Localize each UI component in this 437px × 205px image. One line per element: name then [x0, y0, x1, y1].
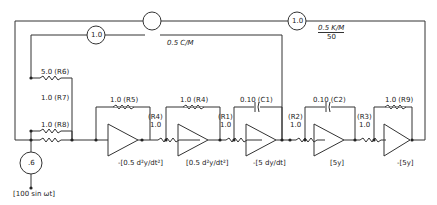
pot-outer-denominator: 50: [327, 33, 336, 41]
r3-label-val: 1.0: [359, 121, 370, 129]
r2-label-val: 1.0: [290, 121, 301, 129]
source-label: [100 sin ωt]: [13, 190, 55, 198]
c2-label: 0.10 (C2): [313, 96, 346, 104]
r7-label: 1.0 (R7): [41, 94, 69, 102]
circuit-diagram: [0, 0, 437, 205]
r1-label-top: (R1): [218, 113, 233, 121]
r4a-label-top: (R4): [148, 113, 163, 121]
pot-outer-label: 0.5 K/M: [318, 24, 344, 33]
pot-outer-value: 1.0: [292, 17, 303, 25]
output-5: -[5y]: [397, 159, 414, 167]
r1-label-val: 1.0: [220, 121, 231, 129]
r2-label-top: (R2): [288, 113, 303, 121]
output-2: [0.5 d²y/dt²]: [186, 159, 229, 167]
r4-label: 1.0 (R4): [180, 96, 208, 104]
pot-inner-value: 1.0: [91, 31, 102, 39]
output-1: -[0.5 d²y/dt²]: [118, 159, 163, 167]
pot-source-value: .6: [28, 159, 35, 167]
r5-label: 1.0 (R5): [110, 96, 138, 104]
c1-label: 0.10 (C1): [240, 96, 273, 104]
pot-inner-label: 0.5 C/M: [167, 39, 194, 47]
r6-label: 5.0 (R6): [41, 68, 69, 76]
r3-label-top: (R3): [357, 113, 372, 121]
r9-label: 1.0 (R9): [385, 96, 413, 104]
r8-label: 1.0 (R8): [41, 121, 69, 129]
r4a-label-val: 1.0: [150, 121, 161, 129]
output-3: -[5 dy/dt]: [253, 159, 286, 167]
output-4: [5y]: [330, 159, 344, 167]
